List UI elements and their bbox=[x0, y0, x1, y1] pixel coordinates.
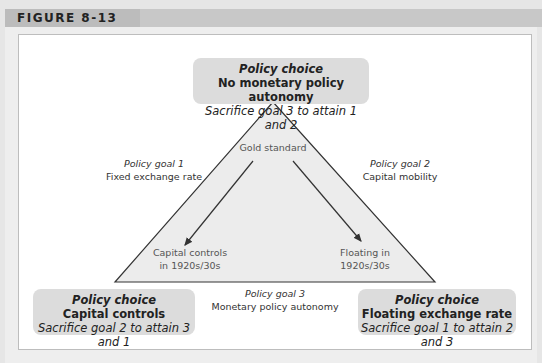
floating-era-line1: Floating in bbox=[330, 246, 400, 259]
capital-controls-era-line1: Capital controls bbox=[150, 246, 230, 259]
policy-choice-top-head: Policy choice bbox=[193, 62, 369, 76]
policy-choice-bottom-left-sub: Sacrifice goal 2 to attain 3 and 1 bbox=[33, 321, 195, 349]
floating-era-line2: 1920s/30s bbox=[330, 259, 400, 272]
capital-controls-era-line2: in 1920s/30s bbox=[150, 259, 230, 272]
policy-choice-top-title: No monetary policy autonomy bbox=[193, 76, 369, 104]
policy-goal-2-name: Capital mobility bbox=[350, 170, 450, 183]
policy-choice-bottom-right-sub: Sacrifice goal 1 to attain 2 and 3 bbox=[358, 321, 516, 349]
policy-choice-top-sub: Sacrifice goal 3 to attain 1 and 2 bbox=[193, 104, 369, 132]
policy-choice-bottom-right-box: Policy choice Floating exchange rate Sac… bbox=[358, 289, 516, 335]
gold-standard-label: Gold standard bbox=[233, 141, 313, 154]
policy-goal-3-name: Monetary policy autonomy bbox=[200, 300, 350, 313]
policy-choice-bottom-left-head: Policy choice bbox=[33, 293, 195, 307]
policy-choice-bottom-right-title: Floating exchange rate bbox=[358, 307, 516, 321]
policy-goal-2-label: Policy goal 2 Capital mobility bbox=[350, 157, 450, 183]
policy-choice-top-box: Policy choice No monetary policy autonom… bbox=[193, 58, 369, 104]
policy-goal-1-label: Policy goal 1 Fixed exchange rate bbox=[104, 157, 204, 183]
policy-choice-bottom-right-head: Policy choice bbox=[358, 293, 516, 307]
policy-goal-3-title: Policy goal 3 bbox=[200, 287, 350, 300]
policy-goal-1-title: Policy goal 1 bbox=[104, 157, 204, 170]
policy-goal-3-label: Policy goal 3 Monetary policy autonomy bbox=[200, 287, 350, 313]
policy-choice-bottom-left-box: Policy choice Capital controls Sacrifice… bbox=[33, 289, 195, 335]
policy-choice-bottom-left-title: Capital controls bbox=[33, 307, 195, 321]
policy-goal-1-name: Fixed exchange rate bbox=[104, 170, 204, 183]
floating-era-label: Floating in 1920s/30s bbox=[330, 246, 400, 272]
capital-controls-era-label: Capital controls in 1920s/30s bbox=[150, 246, 230, 272]
policy-goal-2-title: Policy goal 2 bbox=[350, 157, 450, 170]
